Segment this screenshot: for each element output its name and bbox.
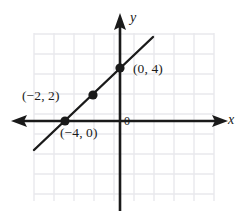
y-axis bbox=[114, 13, 126, 211]
point-label-0-4: (0, 4) bbox=[133, 62, 163, 76]
coordinate-plane-figure: (0, 4) (−2, 2) (−4, 0) 0 y x bbox=[0, 0, 245, 214]
y-axis-label: y bbox=[130, 11, 136, 25]
origin-label: 0 bbox=[124, 115, 130, 127]
x-axis-label: x bbox=[228, 113, 234, 127]
point-marker-0-4 bbox=[115, 63, 124, 72]
point-label-neg2-2: (−2, 2) bbox=[22, 89, 60, 103]
point-label-neg4-0: (−4, 0) bbox=[60, 126, 98, 140]
graph-canvas bbox=[0, 0, 245, 214]
point-marker-neg2-2 bbox=[88, 90, 97, 99]
